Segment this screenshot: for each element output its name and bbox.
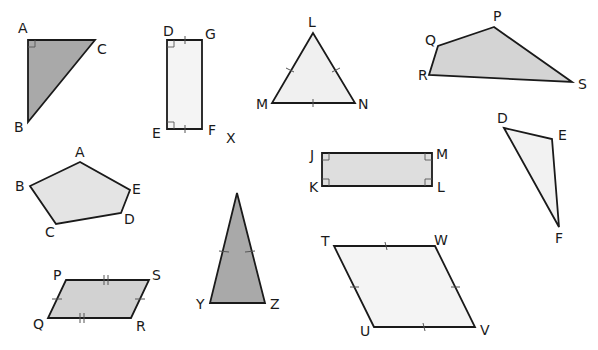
vertex-label-b: B <box>14 119 24 135</box>
triangle-def-shape <box>504 128 559 227</box>
vertex-label-d: D <box>163 23 174 39</box>
rectangle-dgfe: D G F E <box>152 23 216 141</box>
vertex-label-a: A <box>18 20 28 36</box>
rhombus-twvu: T W V U <box>320 232 490 339</box>
vertex-label-r: R <box>418 67 428 83</box>
vertex-label-e: E <box>152 125 161 141</box>
vertex-label-n: N <box>358 96 368 112</box>
vertex-label-p: P <box>493 8 501 24</box>
vertex-label-c: C <box>45 224 55 240</box>
vertex-label-a: A <box>75 144 85 160</box>
vertex-label-d: D <box>124 211 135 227</box>
vertex-label-b: B <box>15 178 25 194</box>
pentagon-abcde: A B C D E <box>15 144 141 240</box>
vertex-label-d: D <box>497 110 508 126</box>
vertex-label-y: Y <box>195 296 205 312</box>
parallelogram-pqrs-shape <box>48 280 149 318</box>
vertex-label-z: Z <box>270 296 280 312</box>
vertex-label-f: F <box>208 122 216 138</box>
quad-pqrs: P Q R S <box>418 8 587 92</box>
vertex-label-m: M <box>436 146 448 162</box>
vertex-label-w: W <box>434 232 448 248</box>
vertex-label-l: L <box>308 14 316 30</box>
vertex-label-q: Q <box>33 316 44 332</box>
vertex-label-j: J <box>309 147 314 163</box>
vertex-label-l: L <box>437 179 445 195</box>
vertex-label-q: Q <box>425 32 436 48</box>
vertex-label-k: K <box>309 179 319 195</box>
vertex-label-s: S <box>578 76 587 92</box>
vertex-label-m: M <box>256 96 268 112</box>
triangle-lmn: L M N <box>256 14 368 112</box>
rectangle-jmlk: J M L K <box>309 146 448 195</box>
triangle-def: D E F <box>497 110 567 246</box>
vertex-label-u: U <box>360 323 370 339</box>
vertex-label-t: T <box>320 233 330 249</box>
quad-pqrs-shape <box>429 27 572 82</box>
vertex-label-e: E <box>558 127 567 143</box>
triangle-yz: Y Z <box>195 193 280 312</box>
pentagon-abcde-shape <box>30 162 130 224</box>
triangle-yz-shape <box>210 193 265 303</box>
vertex-label-r: R <box>136 318 146 334</box>
triangle-abc-shape <box>28 40 95 122</box>
rectangle-jmlk-shape <box>322 153 432 186</box>
stray-label-x: X <box>226 130 236 146</box>
vertex-label-g: G <box>205 26 216 42</box>
vertex-label-s: S <box>152 267 161 283</box>
parallelogram-pqrs: P S R Q <box>33 267 161 334</box>
vertex-label-f: F <box>555 230 563 246</box>
vertex-label-p: P <box>53 267 61 283</box>
rectangle-dgfe-shape <box>167 40 202 129</box>
triangle-lmn-shape <box>272 33 355 103</box>
vertex-label-v: V <box>480 322 490 338</box>
vertex-label-c: C <box>97 41 107 57</box>
geometry-shapes-diagram: A B C D G F E X L M N P Q R S A B C <box>0 0 598 350</box>
triangle-abc: A B C <box>14 20 107 135</box>
vertex-label-e: E <box>132 181 141 197</box>
